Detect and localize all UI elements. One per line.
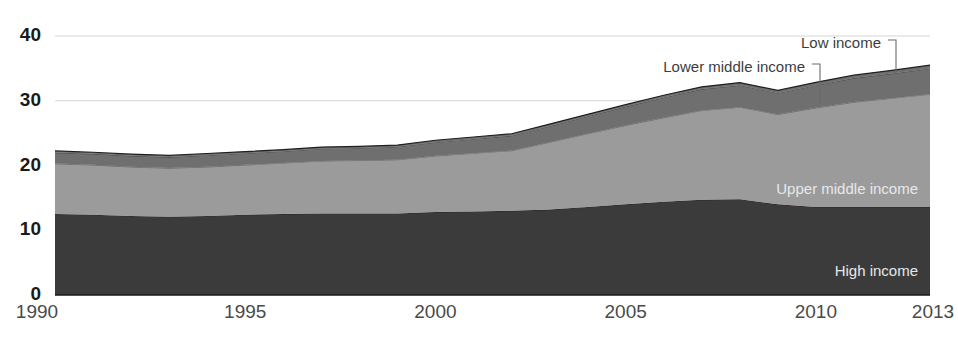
leader-line-low-income [888,40,896,74]
x-axis-tick-labels: 199019952000200520102013 [16,301,954,322]
y-tick-label-40: 40 [20,24,41,45]
x-tick-label-2000: 2000 [414,301,456,322]
y-tick-label-10: 10 [20,218,41,239]
series-label-high-income: High income [835,262,918,279]
series-label-upper-middle-income: Upper middle income [776,180,918,197]
series-label-lower-middle-income: Lower middle income [663,58,805,75]
x-tick-label-1990: 1990 [16,301,58,322]
x-tick-label-2013: 2013 [912,301,954,322]
x-tick-label-2005: 2005 [605,301,647,322]
x-tick-label-1995: 1995 [224,301,266,322]
stacked-area-chart: 010203040 199019952000200520102013 High … [0,0,958,342]
y-axis-tick-labels: 010203040 [20,24,41,304]
series-label-low-income: Low income [801,34,881,51]
y-tick-label-30: 30 [20,89,41,110]
y-tick-label-20: 20 [20,154,41,175]
x-tick-label-2010: 2010 [795,301,837,322]
chart-canvas: 010203040 199019952000200520102013 High … [0,0,958,342]
